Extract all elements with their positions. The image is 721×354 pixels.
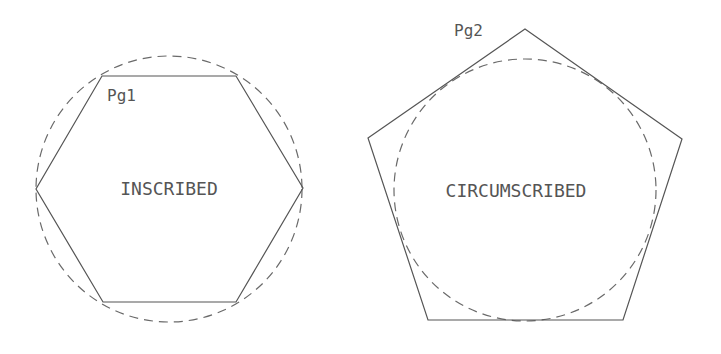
polygon-tag-label: Pg1 bbox=[107, 86, 136, 105]
figure-circumscribed: Pg2 CIRCUMSCRIBED bbox=[368, 21, 682, 321]
polygon-tag-label: Pg2 bbox=[454, 21, 483, 40]
diagram-canvas: Pg1 INSCRIBED Pg2 CIRCUMSCRIBED bbox=[0, 0, 721, 354]
pentagon-shape bbox=[368, 29, 682, 320]
inscribed-caption: INSCRIBED bbox=[120, 178, 218, 199]
circumscribed-caption: CIRCUMSCRIBED bbox=[446, 180, 587, 201]
figure-inscribed: Pg1 INSCRIBED bbox=[36, 56, 303, 322]
